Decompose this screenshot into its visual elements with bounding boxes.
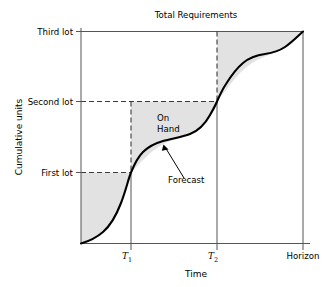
x-tick-t1-sub: 1	[128, 256, 132, 264]
y-axis-title: Cumulative units	[14, 99, 24, 176]
forecast-arrow	[162, 145, 184, 179]
forecast-arrow-head	[162, 145, 169, 151]
shaded-regions	[81, 32, 303, 244]
x-tick-label-t1: T1	[122, 251, 132, 264]
on-hand-label-line1: On	[157, 113, 169, 123]
y-tick-label-first: First lot	[41, 168, 73, 178]
y-tick-label-second: Second lot	[28, 97, 74, 107]
total-requirements-label: Total Requirements	[154, 10, 238, 20]
x-tick-t2-sub: 2	[214, 256, 218, 264]
forecast-arrow-line	[165, 147, 184, 178]
x-tick-label-t2: T2	[208, 251, 218, 264]
forecast-label: Forecast	[168, 175, 205, 185]
x-axis-title: Time	[184, 269, 207, 279]
y-tick-label-third: Third lot	[36, 27, 73, 37]
on-hand-region-lot-1	[81, 173, 131, 244]
cumulative-requirements-chart: Third lot Second lot First lot Cumulativ…	[0, 0, 328, 287]
x-tick-label-horizon: Horizon	[287, 251, 320, 261]
chart-canvas: Third lot Second lot First lot Cumulativ…	[0, 0, 328, 287]
on-hand-label-line2: Hand	[157, 124, 180, 134]
